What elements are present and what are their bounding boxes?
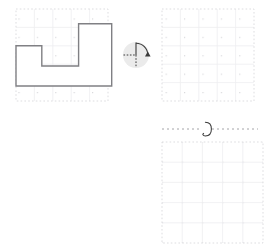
worksheet-canvas: Shape Rotation Worksheet Step-shaped pol… bbox=[0, 0, 272, 248]
answer-grid-bottom-dropzone[interactable] bbox=[162, 142, 263, 243]
source-shape-dragzone[interactable] bbox=[16, 9, 108, 101]
answer-grid-top-dropzone[interactable] bbox=[162, 9, 254, 101]
horizontal-rotation-axis bbox=[162, 122, 258, 136]
rotation-loop-glyph bbox=[203, 122, 212, 136]
